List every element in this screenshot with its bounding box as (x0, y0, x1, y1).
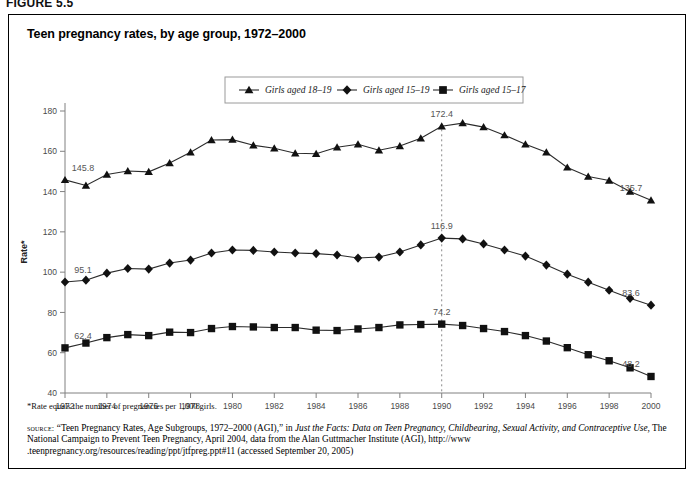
data-point-square (417, 321, 424, 328)
y-tick-label: 140 (43, 187, 57, 197)
y-tick-label: 160 (43, 146, 57, 156)
data-point-square (229, 323, 236, 330)
data-point-triangle (354, 140, 362, 147)
data-point-triangle (396, 142, 404, 149)
data-point-diamond (249, 246, 257, 255)
data-label: 135.7 (620, 183, 643, 193)
data-point-square (647, 373, 654, 380)
data-point-square (271, 324, 278, 331)
data-point-diamond (270, 247, 278, 256)
data-point-square (208, 325, 215, 332)
data-point-square (564, 344, 571, 351)
data-point-diamond (291, 248, 299, 257)
data-point-diamond (375, 252, 383, 261)
data-label: 48.2 (622, 359, 640, 369)
data-point-diamond (124, 264, 132, 273)
data-point-diamond (228, 245, 236, 254)
data-point-triangle (165, 159, 173, 166)
figure-container: Teen pregnancy rates, by age group, 1972… (8, 14, 686, 469)
data-label: 172.4 (430, 109, 453, 119)
x-tick-label: 1996 (558, 401, 577, 411)
data-point-triangle (417, 134, 425, 141)
data-point-square (124, 331, 131, 338)
data-point-square (166, 328, 173, 335)
data-point-diamond (103, 269, 111, 278)
x-tick-label: 1990 (432, 401, 451, 411)
data-point-diamond (354, 253, 362, 262)
data-point-triangle (186, 148, 194, 155)
data-point-square (543, 337, 550, 344)
data-point-triangle (647, 196, 655, 203)
data-point-diamond (458, 234, 466, 243)
x-tick-label: 1986 (349, 401, 368, 411)
data-point-square (354, 325, 361, 332)
data-point-square (585, 351, 592, 358)
data-point-square (61, 344, 68, 351)
data-point-diamond (417, 240, 425, 249)
data-point-diamond (542, 260, 550, 269)
y-tick-label: 80 (48, 308, 58, 318)
x-tick-label: 1982 (265, 401, 284, 411)
data-point-diamond (312, 249, 320, 258)
data-point-square (250, 323, 257, 330)
y-axis-title: Rate* (19, 240, 29, 264)
x-tick-label: 1994 (516, 401, 535, 411)
source-note: source: “Teen Pregnancy Rates, Age Subgr… (27, 423, 672, 457)
data-label: 145.8 (72, 163, 95, 173)
data-point-square (312, 326, 319, 333)
data-point-square (145, 332, 152, 339)
data-point-triangle (500, 131, 508, 138)
data-point-diamond (647, 301, 655, 310)
data-point-square (522, 332, 529, 339)
x-tick-label: 2000 (642, 401, 661, 411)
data-point-square (605, 357, 612, 364)
data-point-diamond (563, 270, 571, 279)
data-point-diamond (207, 248, 215, 257)
data-point-square (501, 328, 508, 335)
data-point-triangle (584, 172, 592, 179)
data-label: 83.6 (622, 288, 640, 298)
data-point-square (459, 322, 466, 329)
data-point-square (480, 325, 487, 332)
data-point-square (103, 334, 110, 341)
data-point-triangle (563, 163, 571, 170)
y-tick-label: 120 (43, 227, 57, 237)
data-point-triangle (458, 119, 466, 126)
data-point-square (438, 320, 445, 327)
data-label: 74.2 (433, 307, 451, 317)
data-point-square (187, 329, 194, 336)
legend-label-2: Girls aged 15–19 (363, 85, 430, 95)
series-line-2 (65, 238, 651, 305)
x-tick-label: 1988 (390, 401, 409, 411)
data-point-square (375, 324, 382, 331)
source-text-part1: “Teen Pregnancy Rates, Age Subgroups, 19… (54, 423, 295, 433)
data-point-square (396, 321, 403, 328)
data-point-triangle (521, 140, 529, 147)
legend-label-1: Girls aged 18–19 (265, 85, 332, 95)
data-point-triangle (542, 148, 550, 155)
data-point-diamond (61, 277, 69, 286)
data-point-diamond (186, 255, 194, 264)
y-tick-label: 40 (48, 388, 58, 398)
data-label: 95.1 (74, 265, 92, 275)
data-point-diamond (396, 247, 404, 256)
data-point-diamond (145, 265, 153, 274)
data-point-diamond (605, 286, 613, 295)
x-tick-label: 1998 (600, 401, 619, 411)
figure-label: FIGURE 5.5 (6, 0, 73, 10)
data-point-diamond (479, 239, 487, 248)
data-point-diamond (521, 251, 529, 260)
source-title-italic: Just the Facts: Data on Teen Pregnancy, … (295, 423, 650, 433)
series-line-1 (65, 123, 651, 200)
x-tick-label: 1992 (474, 401, 493, 411)
data-point-square (333, 327, 340, 334)
data-point-diamond (584, 278, 592, 287)
legend-marker-square-icon (439, 86, 447, 94)
data-point-square (292, 324, 299, 331)
legend-label-3: Girls aged 15–17 (459, 85, 527, 95)
data-point-triangle (61, 176, 69, 183)
y-tick-label: 180 (43, 106, 57, 116)
data-point-diamond (333, 250, 341, 259)
data-point-diamond (438, 234, 446, 243)
x-tick-label: 1984 (307, 401, 326, 411)
